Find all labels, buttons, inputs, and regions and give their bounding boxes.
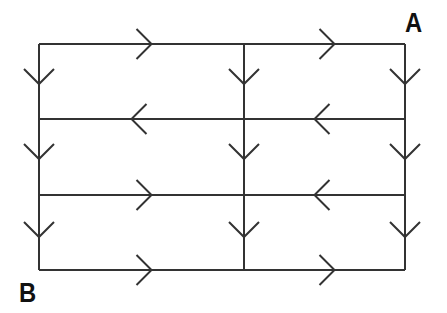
node-label-b: B xyxy=(19,279,36,307)
directed-grid-diagram xyxy=(0,0,447,313)
grid-edges xyxy=(39,44,405,270)
node-label-a: A xyxy=(405,9,422,37)
arrowheads xyxy=(24,29,420,285)
